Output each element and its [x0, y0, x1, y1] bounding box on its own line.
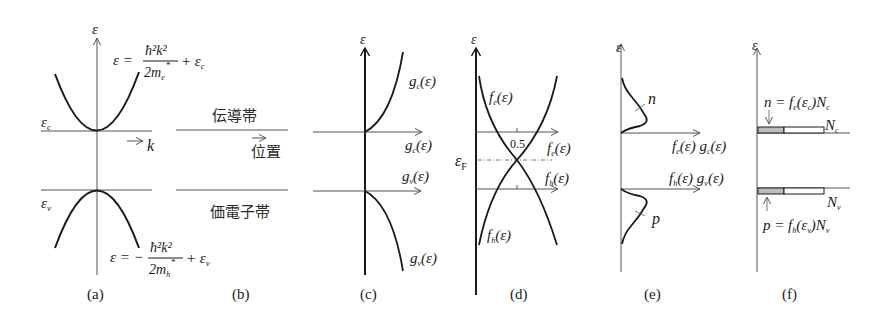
panel-e-p-label: p: [651, 210, 660, 228]
panel-c-gv-curve: [365, 191, 403, 271]
panel-f-effective-density: ε n = fe(εc)Nc Nc Nv p = fh(εv)Nv (f): [752, 38, 850, 303]
panel-e-n-pointer: [635, 104, 645, 111]
svg-text:+ εc: + εc: [181, 53, 205, 71]
svg-text:*: *: [171, 257, 176, 267]
panel-d-fermi-label: εF: [455, 152, 467, 172]
panel-b-band-edges: 伝導帯 価電子帯 位置 (b): [176, 107, 288, 303]
panel-a-valence-equation: ε = − ħ²k² 2mh * + εv: [110, 240, 210, 279]
panel-f-caption: (f): [782, 286, 797, 303]
panel-a-epsilon-axis-label: ε: [92, 21, 98, 37]
panel-c-epsilon-label: ε: [360, 32, 366, 47]
panel-a-conduction-equation: ε = ħ²k² 2me * + εc: [113, 43, 205, 82]
panel-f-n-filled-bar: [758, 127, 784, 133]
panel-b-valence-band-label: 価電子帯: [210, 203, 270, 221]
band-diagram-figure: ε εc εv k ε = ħ²k² 2me * + εc ε = − ħ²k²…: [0, 0, 891, 319]
panel-b-conduction-band-label: 伝導帯: [212, 107, 257, 125]
panel-c-gc-curve-label: gc(ε): [409, 73, 436, 91]
panel-f-Nv-label: Nv: [826, 194, 841, 212]
panel-d-fe-curve-label: fe(ε): [489, 89, 513, 107]
panel-f-p-filled-bar: [758, 188, 784, 194]
panel-c-caption: (c): [360, 286, 377, 303]
svg-text:ε = −: ε = −: [110, 249, 144, 265]
panel-f-n-equation: n = fe(εc)Nc: [764, 94, 830, 112]
panel-f-Nv-empty-bar: [784, 188, 824, 194]
panel-a-caption: (a): [87, 286, 104, 303]
panel-c-gc-curve: [365, 52, 403, 132]
svg-text:ħ²k²: ħ²k²: [150, 240, 172, 255]
panel-d-distribution-functions: ε εF 0.5 fe(ε) fe(ε) fh(ε) fh(ε) (d): [455, 32, 571, 303]
panel-c-gv-curve-label: gv(ε): [410, 250, 437, 268]
svg-text:ε =: ε =: [113, 52, 133, 68]
svg-text:2mh: 2mh: [149, 262, 170, 279]
panel-a-ec-label: εc: [41, 114, 51, 132]
svg-text:2me: 2me: [144, 65, 165, 82]
panel-f-epsilon-label: ε: [752, 38, 758, 53]
svg-text:+ εv: + εv: [186, 250, 210, 268]
panel-a-k-label: k: [147, 137, 155, 154]
panel-e-hole-axis-label: fh(ε) gv(ε): [669, 170, 724, 188]
panel-c-density-of-states: ε gc(ε) gc(ε) gv(ε) gv(ε) (c): [313, 32, 437, 303]
svg-text:*: *: [166, 60, 171, 70]
panel-c-gc-axis-label: gc(ε): [405, 137, 432, 155]
panel-b-position-label: 位置: [251, 143, 281, 161]
panel-f-p-equation: p = fh(εv)Nv: [762, 217, 830, 235]
panel-d-epsilon-label: ε: [471, 32, 477, 47]
panel-d-caption: (d): [510, 286, 528, 303]
panel-d-fh-curve-label: fh(ε): [487, 227, 511, 245]
panel-b-caption: (b): [232, 286, 250, 303]
panel-d-fh-axis-label: fh(ε): [545, 170, 569, 188]
panel-c-gv-axis-label: gv(ε): [402, 168, 429, 186]
panel-d-fe-axis-label: fe(ε): [547, 140, 571, 158]
panel-e-hole-curve: [621, 189, 647, 244]
panel-a-ev-label: εv: [41, 195, 51, 213]
panel-e-carrier-distribution: ε n p fe(ε) gc(ε) fh(ε) gv(ε) (e): [616, 40, 726, 303]
panel-d-half-label: 0.5: [510, 137, 525, 151]
panel-f-Nc-empty-bar: [784, 127, 824, 133]
panel-f-Nc-label: Nc: [824, 117, 839, 135]
panel-e-n-label: n: [648, 90, 656, 107]
panel-e-caption: (e): [644, 286, 661, 303]
panel-a-dispersion: ε εc εv k ε = ħ²k² 2me * + εc ε = − ħ²k²…: [41, 21, 210, 303]
svg-text:ħ²k²: ħ²k²: [145, 43, 167, 58]
panel-e-electron-axis-label: fe(ε) gc(ε): [672, 138, 726, 156]
panel-e-epsilon-label: ε: [616, 40, 622, 55]
